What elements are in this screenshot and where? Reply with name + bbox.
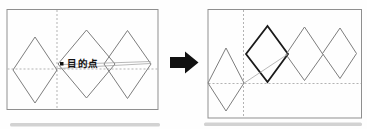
right-diamond-small xyxy=(208,48,244,111)
figure-svg: 目的点 xyxy=(0,0,367,129)
right-diamond-selected xyxy=(246,26,288,82)
transform-arrow-icon xyxy=(170,52,199,74)
scan-shadow-1 xyxy=(10,123,160,127)
right-panel-frame xyxy=(208,10,362,119)
right-diamond-4 xyxy=(323,28,357,79)
scan-shadow-2 xyxy=(204,123,362,127)
destination-point-marker xyxy=(60,62,64,66)
left-diamond-1 xyxy=(13,37,57,103)
destination-point-label: 目的点 xyxy=(67,58,99,69)
diagram-figure: 目的点 xyxy=(0,0,367,129)
right-diamond-3 xyxy=(286,27,323,81)
